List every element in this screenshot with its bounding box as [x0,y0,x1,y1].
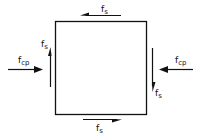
bottom-shear-arrow [83,119,122,123]
left-shear-arrow [48,47,52,87]
right-shear-label: fs [155,88,162,100]
stress-element-diagram: fs fs fs fs fcp fcp [0,0,197,140]
bottom-shear-label: fs [96,123,103,135]
right-shear-arrow [152,48,156,92]
top-shear-label: fs [101,4,108,16]
left-compression-arrow [8,66,43,73]
right-compression-arrow [159,66,193,73]
left-compression-label: fcp [18,55,30,67]
left-shear-label: fs [41,39,48,51]
right-compression-label: fcp [175,55,187,67]
element-square [56,22,147,115]
